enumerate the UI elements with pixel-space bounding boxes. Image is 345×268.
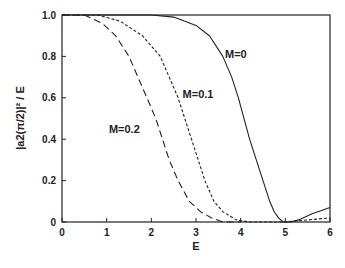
y-tick-label: 0.2 (42, 175, 56, 186)
y-tick-label: 0 (50, 217, 56, 228)
x-tick-label: 1 (104, 227, 110, 238)
x-tick-label: 3 (193, 227, 199, 238)
y-tick-label: 0.4 (42, 134, 56, 145)
curve-label: M=0 (225, 48, 247, 60)
x-tick-label: 0 (59, 227, 65, 238)
x-tick-label: 2 (149, 227, 155, 238)
curve-label: M=0.2 (109, 123, 140, 135)
plot-series (62, 15, 330, 222)
y-tick-label: 0.8 (42, 51, 56, 62)
curve-labels: M=0M=0.1M=0.2 (109, 48, 247, 135)
series-m-0-2 (62, 15, 241, 222)
x-tick-label: 6 (327, 227, 333, 238)
x-tick-label: 4 (238, 227, 244, 238)
y-tick-label: 0.6 (42, 92, 56, 103)
series-m-0 (62, 15, 330, 222)
y-tick-label: 1.0 (42, 10, 56, 21)
x-axis-label: E (192, 240, 199, 252)
plot-axes: 012345600.20.40.60.81.0 (42, 10, 333, 239)
plot-frame (62, 15, 330, 222)
line-chart: 012345600.20.40.60.81.0 M=0M=0.1M=0.2 E … (0, 0, 345, 268)
y-axis-label: |a2(π/2)|² / E (14, 86, 26, 149)
x-tick-label: 5 (283, 227, 289, 238)
series-m-0-1 (62, 15, 330, 222)
curve-label: M=0.1 (183, 88, 214, 100)
